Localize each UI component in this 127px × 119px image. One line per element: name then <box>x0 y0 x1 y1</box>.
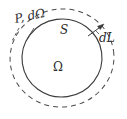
figure-container: P, dΩ S Ω dL <box>0 0 127 119</box>
label-length-element-dl: dL <box>99 32 115 44</box>
label-surface-s: S <box>60 24 68 36</box>
domega-leader-line <box>27 28 34 39</box>
p-leader-line <box>12 28 19 41</box>
label-domain-omega: Ω <box>53 61 63 73</box>
